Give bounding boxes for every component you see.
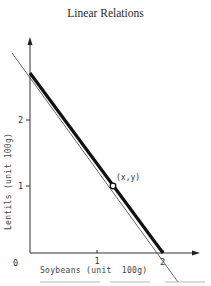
x-axis-label: Soybeans (unit 100g) [40, 266, 147, 275]
extended-line [12, 53, 178, 282]
point-label: (x,y) [116, 173, 140, 182]
y-axis-label: Lentils (unit 100g) [4, 133, 13, 230]
y-axis-arrow-icon [28, 37, 33, 45]
x-axis-arrow-icon [192, 251, 200, 256]
chart-plot-area: (x,y) 0 1 2 1 2 Soybeans (unit 100g) Len… [0, 0, 211, 286]
y-tick-label-1: 1 [18, 181, 23, 191]
origin-label: 0 [13, 258, 18, 268]
cutoff-caption [40, 281, 205, 283]
x-tick-label-1: 1 [95, 256, 100, 266]
y-tick-label-2: 2 [18, 115, 23, 125]
point-marker [110, 183, 116, 189]
x-tick-label-2: 2 [160, 257, 165, 267]
constraint-line [30, 73, 163, 253]
